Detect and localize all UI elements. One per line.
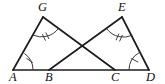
angle-mark-d <box>129 53 139 70</box>
segment-be <box>49 17 122 70</box>
vertex-label-a: A <box>8 70 17 84</box>
segment-ed <box>122 17 149 70</box>
vertex-label-d: D <box>145 70 155 84</box>
segment-ag <box>13 17 43 70</box>
vertex-label-c: C <box>111 70 120 84</box>
geometry-figure: A B C D G E <box>0 0 165 84</box>
angle-mark-g <box>33 29 59 41</box>
figure-canvas: A B C D G E <box>0 0 165 84</box>
vertex-label-e: E <box>117 0 126 14</box>
vertex-label-g: G <box>38 0 47 14</box>
vertex-label-b: B <box>45 70 53 84</box>
segment-gc <box>43 17 115 70</box>
angle-mark-a <box>24 53 33 70</box>
